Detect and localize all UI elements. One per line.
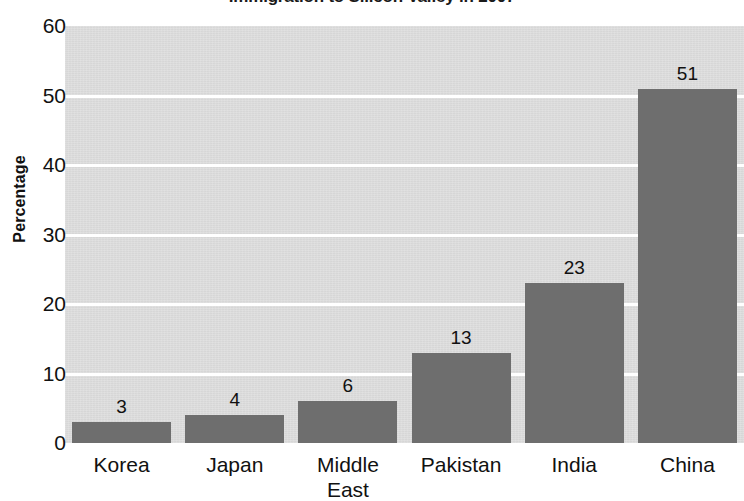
- y-axis-title: Percentage: [11, 99, 29, 299]
- x-category-label: Pakistan: [405, 452, 518, 477]
- y-tick-label: 0: [6, 431, 66, 455]
- x-category-label-line: East: [291, 477, 404, 501]
- plot-area: 346132351: [65, 26, 744, 443]
- bar[interactable]: [525, 283, 624, 443]
- bar-value-label: 51: [677, 63, 698, 85]
- bar-slot: 23: [525, 26, 624, 443]
- x-category-label-line: Pakistan: [405, 452, 518, 477]
- bar-slot: 3: [72, 26, 171, 443]
- bar-chart-figure: Immigration to Silicon Valley in 2007 Pe…: [0, 0, 744, 501]
- chart-title: Immigration to Silicon Valley in 2007: [0, 0, 744, 7]
- bar-value-label: 13: [451, 327, 472, 349]
- bar-value-label: 3: [116, 396, 127, 418]
- x-category-label: India: [518, 452, 631, 477]
- x-category-label-line: Korea: [65, 452, 178, 477]
- bar-slot: 51: [638, 26, 737, 443]
- y-tick-label: 60: [6, 14, 66, 38]
- y-tick-label: 40: [6, 153, 66, 177]
- y-tick-label: 10: [6, 362, 66, 386]
- bar[interactable]: [72, 422, 171, 443]
- y-tick-label: 30: [6, 223, 66, 247]
- y-tick-label: 20: [6, 292, 66, 316]
- x-category-label: Korea: [65, 452, 178, 477]
- x-category-label: MiddleEast: [291, 452, 404, 501]
- x-category-label: China: [631, 452, 744, 477]
- bar-slot: 4: [185, 26, 284, 443]
- bar-value-label: 6: [343, 375, 354, 397]
- bar[interactable]: [298, 401, 397, 443]
- bar-value-label: 4: [229, 389, 240, 411]
- bar-slot: 13: [412, 26, 511, 443]
- bar-slot: 6: [298, 26, 397, 443]
- y-tick-label: 50: [6, 84, 66, 108]
- x-category-label-line: Middle: [291, 452, 404, 477]
- x-category-label: Japan: [178, 452, 291, 477]
- x-category-label-line: India: [518, 452, 631, 477]
- bar[interactable]: [638, 89, 737, 443]
- bar[interactable]: [185, 415, 284, 443]
- bar[interactable]: [412, 353, 511, 443]
- x-category-label-line: Japan: [178, 452, 291, 477]
- x-category-label-line: China: [631, 452, 744, 477]
- bar-value-label: 23: [564, 257, 585, 279]
